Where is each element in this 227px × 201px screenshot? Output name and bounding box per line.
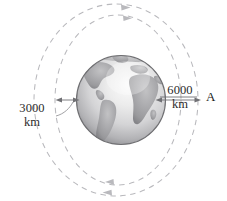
earth-globe — [77, 52, 166, 144]
orbital-diagram-figure: 3000 km 6000 km A — [0, 0, 227, 201]
inner-distance-unit: km — [9, 115, 55, 129]
inner-distance-value: 3000 — [9, 101, 55, 115]
outer-distance-unit: km — [158, 97, 202, 111]
outer-distance-value: 6000 — [158, 83, 202, 97]
leader-line-3000 — [56, 102, 73, 116]
outer-distance-label: 6000 km — [158, 83, 202, 111]
dimension-arrow-left — [56, 98, 63, 103]
globe-highlight — [106, 61, 150, 95]
inner-altitude-dimension — [56, 98, 80, 116]
inner-distance-label: 3000 km — [9, 101, 55, 129]
point-a-label: A — [206, 89, 215, 105]
